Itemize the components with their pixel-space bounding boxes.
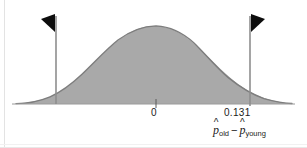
x-tick-label-zero: 0	[151, 108, 157, 118]
statistics-figure: 0 0.131 ^pold−^pyoung	[0, 0, 307, 148]
left-flag-triangle-icon	[41, 14, 55, 32]
hat-icon-young: ^	[239, 118, 245, 128]
left-critical-marker	[41, 14, 56, 104]
right-critical-marker	[250, 14, 265, 106]
subscript-old: old	[219, 129, 229, 138]
x-axis-title: ^pold−^pyoung	[213, 124, 266, 136]
hat-icon-old: ^	[213, 118, 219, 128]
x-tick-label-observed-value: 0.131	[224, 108, 251, 118]
right-flag-triangle-icon	[251, 14, 265, 32]
minus-sign: −	[229, 124, 239, 136]
subscript-young: young	[245, 129, 265, 138]
